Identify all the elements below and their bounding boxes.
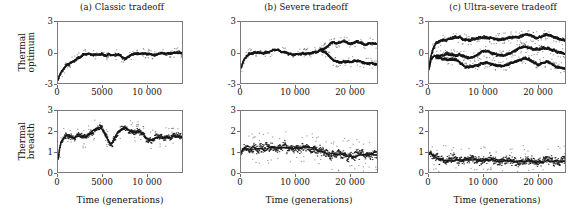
figure-root: (a) Classic tradeoff 3 0 -3 Thermal opti… bbox=[0, 0, 585, 219]
panel-b-bot-ytick-3: 3 bbox=[217, 105, 236, 115]
panel-a-top-ytickmark-0 bbox=[54, 53, 57, 54]
panel-a-top-ytick-3: 3 bbox=[34, 16, 53, 26]
panel-b-top-ytickmark-0 bbox=[237, 53, 240, 54]
panel-b-top-plot bbox=[240, 21, 378, 84]
panel-a-bot-xtick-10000: 10 000 bbox=[132, 177, 162, 187]
panel-b-top-ytick-3: 3 bbox=[217, 16, 236, 26]
panel-b-bot-ytickmark-3 bbox=[237, 110, 240, 111]
panel-c-title: (c) Ultra-severe tradeoff bbox=[423, 2, 583, 12]
panel-b-top-xtick-20000: 20 000 bbox=[335, 87, 365, 97]
panel-b-top-ytick-0: 0 bbox=[217, 48, 236, 58]
panel-c-top-ytick-3: 3 bbox=[405, 16, 424, 26]
panel-a-bot-ytickmark-3 bbox=[54, 110, 57, 111]
panel-c-x-axis-label: Time (generations) bbox=[454, 195, 541, 205]
panel-c-bot-xtick-20000: 20 000 bbox=[523, 177, 553, 187]
panel-a-bot-ytickmark-1 bbox=[54, 152, 57, 153]
panel-c-bot-ytickmark-2 bbox=[425, 131, 428, 132]
panel-a-top-xtick-5000: 5000 bbox=[91, 87, 113, 97]
panel-a-top-xtick-0: 0 bbox=[54, 87, 59, 97]
panel-b-bot-ytick-0: 0 bbox=[217, 168, 236, 178]
panel-b-bot-xtick-10000: 10 000 bbox=[280, 177, 310, 187]
panel-c-bot-ytick-3: 3 bbox=[405, 105, 424, 115]
panel-b-bot-xtick-20000: 20 000 bbox=[335, 177, 365, 187]
panel-b-top-ytickmark-3 bbox=[237, 21, 240, 22]
panel-a-top-y-axis-label-line2: optimum bbox=[27, 18, 36, 86]
panel-a-bot-xtick-5000: 5000 bbox=[91, 177, 113, 187]
panel-c-top-plot bbox=[428, 21, 566, 84]
panel-a-top-ytick-0: 0 bbox=[34, 48, 53, 58]
panel-c-bot-ytickmark-3 bbox=[425, 110, 428, 111]
panel-a-bot-ytick-3: 3 bbox=[34, 105, 53, 115]
panel-c-top-ytick-neg3: -3 bbox=[402, 79, 424, 89]
panel-a-bot-ytick-0: 0 bbox=[34, 168, 53, 178]
panel-a-x-axis-label: Time (generations) bbox=[77, 195, 164, 205]
panel-c-top-xtick-20000: 20 000 bbox=[523, 87, 553, 97]
panel-c-top-ytickmark-3 bbox=[425, 21, 428, 22]
panel-b-bottom-plot bbox=[240, 110, 378, 173]
panel-a-bot-xtick-0: 0 bbox=[54, 177, 59, 187]
panel-b-bot-ytick-1: 1 bbox=[217, 147, 236, 157]
panel-c-bot-ytick-1: 1 bbox=[405, 147, 424, 157]
panel-a-bot-y-axis-label-line2: breadth bbox=[27, 107, 36, 175]
panel-c-bottom-plot bbox=[428, 110, 566, 173]
panel-c-top-xtick-0: 0 bbox=[425, 87, 430, 97]
panel-a-top-xtick-10000: 10 000 bbox=[132, 87, 162, 97]
panel-a-bot-ytick-2: 2 bbox=[34, 126, 53, 136]
panel-a-top-ytickmark-3 bbox=[54, 21, 57, 22]
panel-c-top-ytickmark-0 bbox=[425, 53, 428, 54]
panel-c-bot-ytickmark-1 bbox=[425, 152, 428, 153]
panel-b-bot-ytickmark-2 bbox=[237, 131, 240, 132]
panel-a-top-y-axis-label: Thermal optimum bbox=[18, 18, 36, 86]
panel-c-bot-xtick-10000: 10 000 bbox=[468, 177, 498, 187]
panel-b-top-ytick-neg3: -3 bbox=[214, 79, 236, 89]
panel-b-bot-xtick-0: 0 bbox=[237, 177, 242, 187]
panel-b-x-axis-label: Time (generations) bbox=[266, 195, 353, 205]
panel-a-bottom-y-axis-label: Thermal breadth bbox=[18, 107, 36, 175]
panel-c-bot-ytick-2: 2 bbox=[405, 126, 424, 136]
panel-c-top-ytick-0: 0 bbox=[405, 48, 424, 58]
panel-c-bot-xtick-0: 0 bbox=[425, 177, 430, 187]
panel-b-bot-ytick-2: 2 bbox=[217, 126, 236, 136]
panel-b-top-xtick-10000: 10 000 bbox=[280, 87, 310, 97]
panel-a-bot-ytick-1: 1 bbox=[34, 147, 53, 157]
panel-a-title: (a) Classic tradeoff bbox=[58, 2, 186, 12]
panel-b-title: (b) Severe tradeoff bbox=[243, 2, 369, 12]
panel-c-top-xtick-10000: 10 000 bbox=[468, 87, 498, 97]
panel-a-bot-ytickmark-2 bbox=[54, 131, 57, 132]
panel-a-bottom-plot bbox=[57, 110, 183, 173]
panel-b-bot-ytickmark-1 bbox=[237, 152, 240, 153]
panel-b-top-xtick-0: 0 bbox=[237, 87, 242, 97]
panel-a-top-plot bbox=[57, 21, 183, 84]
panel-c-bot-ytick-0: 0 bbox=[405, 168, 424, 178]
